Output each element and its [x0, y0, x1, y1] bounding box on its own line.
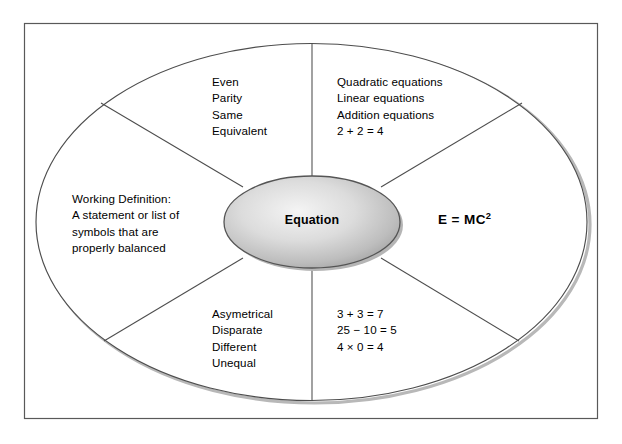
quadrant-antonyms-text: Asymetrical Disparate Different Unequal: [212, 306, 273, 372]
definition-line-3: symbols that are: [72, 225, 159, 238]
definition-line-2: A statement or list of: [72, 208, 179, 221]
quadrant-non-examples-text: 3 + 3 = 7 25 − 10 = 5 4 × 0 = 4: [337, 306, 397, 355]
formula-exponent: 2: [486, 210, 492, 221]
center-concept-label: Equation: [224, 213, 400, 227]
definition-line-4: properly balanced: [72, 241, 166, 254]
example-line-1: Quadratic equations: [337, 75, 443, 88]
synonym-line-4: Equivalent: [212, 124, 267, 137]
working-definition-text: Working Definition: A statement or list …: [72, 191, 179, 257]
quadrant-synonyms-text: Even Parity Same Equivalent: [212, 74, 267, 140]
antonym-line-4: Unequal: [212, 356, 256, 369]
antonym-line-2: Disparate: [212, 323, 263, 336]
antonym-line-1: Asymetrical: [212, 307, 273, 320]
synonym-line-3: Same: [212, 108, 243, 121]
diagram-canvas: Even Parity Same Equivalent Quadratic eq…: [0, 0, 622, 444]
formula-base: E = MC: [438, 212, 486, 227]
definition-line-1: Working Definition:: [72, 192, 171, 205]
example-line-2: Linear equations: [337, 91, 424, 104]
non-example-line-2: 25 − 10 = 5: [337, 323, 397, 336]
example-line-3: Addition equations: [337, 108, 434, 121]
non-example-line-3: 4 × 0 = 4: [337, 340, 384, 353]
formula-label: E = MC2: [438, 212, 491, 227]
synonym-line-1: Even: [212, 75, 239, 88]
synonym-line-2: Parity: [212, 91, 242, 104]
antonym-line-3: Different: [212, 340, 257, 353]
quadrant-examples-text: Quadratic equations Linear equations Add…: [337, 74, 443, 140]
non-example-line-1: 3 + 3 = 7: [337, 307, 384, 320]
example-line-4: 2 + 2 = 4: [337, 124, 384, 137]
